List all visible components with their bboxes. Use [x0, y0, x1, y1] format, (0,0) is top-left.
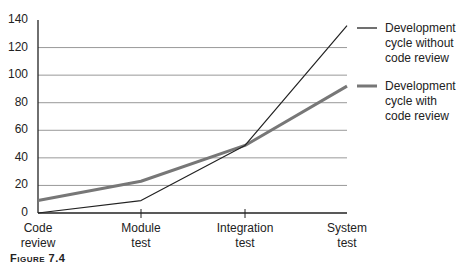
- legend-label: code review: [385, 51, 463, 66]
- x-tick-label: Codereview: [0, 221, 78, 251]
- legend-with-review: Development cycle with code review: [385, 79, 463, 124]
- series-lines: [38, 26, 347, 213]
- x-tick-label: Integrationtest: [205, 221, 285, 251]
- y-tick-label: 80: [0, 95, 28, 109]
- y-tick-label: 120: [0, 40, 28, 54]
- figure-caption: Figure 7.4: [10, 252, 65, 264]
- y-tick-label: 0: [0, 205, 28, 219]
- y-tick-label: 40: [0, 150, 28, 164]
- legend-label: Development: [385, 21, 463, 36]
- y-tick-label: 140: [0, 12, 28, 26]
- legend-label: cycle with: [385, 94, 463, 109]
- y-tick-label: 100: [0, 67, 28, 81]
- legend-label: code review: [385, 109, 463, 124]
- series-line: [38, 26, 347, 213]
- x-tick-label: Systemtest: [307, 221, 387, 251]
- y-tick-label: 60: [0, 122, 28, 136]
- legend-label: cycle without: [385, 36, 463, 51]
- y-tick-label: 20: [0, 177, 28, 191]
- series-line: [38, 86, 347, 200]
- legend-without-review: Development cycle without code review: [385, 21, 463, 66]
- x-tick-label: Moduletest: [101, 221, 181, 251]
- legend-label: Development: [385, 79, 463, 94]
